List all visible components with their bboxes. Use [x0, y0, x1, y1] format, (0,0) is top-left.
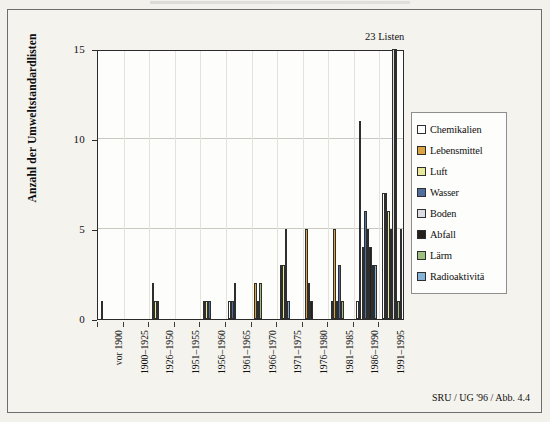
x-tick-mark — [251, 322, 252, 327]
bar-group — [226, 51, 252, 319]
legend-swatch-icon — [417, 146, 426, 155]
legend-label: Luft — [430, 166, 447, 177]
bar-group — [175, 51, 201, 319]
x-tick-label: 1966–1970 — [267, 330, 278, 374]
x-tick-label: 1991–1995 — [395, 330, 406, 374]
legend-item[interactable]: Lebensmittel — [417, 140, 503, 161]
bar — [400, 229, 403, 319]
legend-item[interactable]: Abfall — [417, 224, 503, 245]
legend-item[interactable]: Lärm — [417, 245, 503, 266]
x-tick-label: 1986–1990 — [369, 330, 380, 374]
x-tick-mark — [174, 322, 175, 327]
x-tick-label: 1971–1975 — [292, 330, 303, 374]
bar — [374, 265, 377, 319]
figure-page: Anzahl der Umweltstandardlisten 23 Liste… — [0, 0, 550, 422]
legend-item[interactable]: Boden — [417, 203, 503, 224]
x-tick-mark — [123, 322, 124, 327]
bar-group — [252, 51, 278, 319]
x-tick-mark — [353, 322, 354, 327]
legend-label: Chemikalien — [430, 124, 482, 135]
x-tick-mark — [199, 322, 200, 327]
bar — [208, 301, 211, 319]
bar — [101, 301, 104, 319]
x-axis: vor 19001900–19251926–19501951–19551956–… — [97, 322, 404, 402]
bar — [395, 49, 398, 319]
x-tick-mark — [302, 322, 303, 327]
legend-label: Radioaktivitä — [430, 271, 484, 282]
bar-group — [124, 51, 150, 319]
x-tick-label: 1981–1985 — [344, 330, 355, 374]
y-tick-label: 15 — [45, 43, 85, 55]
bar — [157, 301, 160, 319]
y-tick-mark — [92, 140, 97, 141]
source-caption: SRU / UG '96 / Abb. 4.4 — [432, 392, 530, 403]
legend-swatch-icon — [417, 125, 426, 134]
legend-swatch-icon — [417, 230, 426, 239]
x-tick-label: 1926–1950 — [164, 330, 175, 374]
x-tick-mark — [276, 322, 277, 327]
bar-group — [303, 51, 329, 319]
y-tick-mark — [92, 230, 97, 231]
legend-swatch-icon — [417, 188, 426, 197]
bar-group — [98, 51, 124, 319]
x-tick-mark — [378, 322, 379, 327]
x-tick-label: 1951–1955 — [190, 330, 201, 374]
bar — [287, 301, 290, 319]
y-tick-mark — [92, 50, 97, 51]
y-tick-label: 0 — [45, 313, 85, 325]
bar — [310, 301, 313, 319]
legend-swatch-icon — [417, 272, 426, 281]
legend-label: Lärm — [430, 250, 452, 261]
x-tick-label: 1976–1980 — [318, 330, 329, 374]
legend-label: Boden — [430, 208, 456, 219]
plot-area — [97, 50, 404, 320]
legend-item[interactable]: Wasser — [417, 182, 503, 203]
x-tick-label: 1956–1960 — [216, 330, 227, 374]
y-tick-label: 10 — [45, 133, 85, 145]
legend-label: Abfall — [430, 229, 456, 240]
bar-group — [149, 51, 175, 319]
legend-item[interactable]: Radioaktivitä — [417, 266, 503, 287]
chart-annotation: 23 Listen — [365, 31, 404, 42]
bar — [341, 301, 344, 319]
x-tick-mark — [327, 322, 328, 327]
legend-label: Wasser — [430, 187, 459, 198]
legend-item[interactable]: Luft — [417, 161, 503, 182]
bar-group — [277, 51, 303, 319]
legend-label: Lebensmittel — [430, 145, 483, 156]
y-axis-title: Anzahl der Umweltstandardlisten — [26, 0, 38, 268]
bar — [234, 283, 237, 319]
y-tick-label: 5 — [45, 223, 85, 235]
legend-swatch-icon — [417, 167, 426, 176]
y-tick-mark — [92, 320, 97, 321]
legend-swatch-icon — [417, 251, 426, 260]
x-tick-mark — [148, 322, 149, 327]
bar-group — [379, 51, 405, 319]
x-tick-label: 1900–1925 — [139, 330, 150, 374]
bar-group — [354, 51, 380, 319]
bar — [259, 283, 262, 319]
legend-swatch-icon — [417, 209, 426, 218]
scan-artifact — [150, 1, 410, 4]
x-tick-mark — [225, 322, 226, 327]
x-tick-mark — [97, 322, 98, 327]
bar-group — [200, 51, 226, 319]
legend: ChemikalienLebensmittelLuftWasserBodenAb… — [411, 112, 507, 294]
bar-group — [328, 51, 354, 319]
x-tick-label: vor 1900 — [113, 330, 124, 365]
x-tick-label: 1961–1965 — [241, 330, 252, 374]
legend-item[interactable]: Chemikalien — [417, 119, 503, 140]
